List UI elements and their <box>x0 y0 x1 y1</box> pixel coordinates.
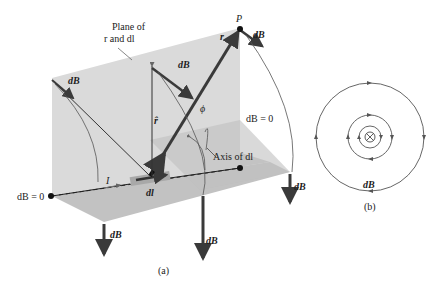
caption-a: (a) <box>158 265 169 277</box>
axis-label: Axis of dl <box>213 151 253 162</box>
caption-b: (b) <box>364 201 376 213</box>
current-label: I <box>105 175 110 186</box>
db-label: dB <box>68 75 80 86</box>
db-label: dB <box>253 29 265 40</box>
r-label: r <box>220 31 224 42</box>
dl-label: dl <box>146 187 154 198</box>
db-label: dB <box>110 229 122 240</box>
panel-b <box>314 81 426 193</box>
point-p <box>237 26 243 32</box>
panel-b-db-label: dB <box>363 179 375 190</box>
db-label: dB <box>178 59 190 70</box>
db-label: dB <box>294 181 306 192</box>
db-label: dB <box>206 235 218 246</box>
plane-label-2: r and dl <box>104 33 135 44</box>
phi-label: ϕ <box>200 103 205 114</box>
plane-label-1: Plane of <box>112 21 146 32</box>
db-zero-right-label: dB = 0 <box>246 113 273 124</box>
biot-savart-diagram: Plane of r and dl P dB r dB dB r̂ ϕ dB =… <box>0 0 438 288</box>
point-db-zero-right <box>237 165 243 171</box>
db-zero-left-label: dB = 0 <box>17 191 44 202</box>
point-p-label: P <box>235 13 242 24</box>
point-db-zero-left <box>48 193 54 199</box>
